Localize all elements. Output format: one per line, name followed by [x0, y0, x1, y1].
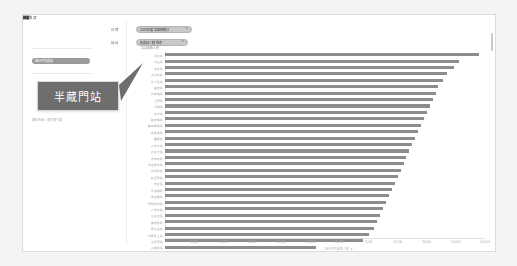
bar-row[interactable]: 九段下站	[165, 149, 485, 154]
bar-row[interactable]: 秋葉原站	[165, 175, 485, 180]
bar-row[interactable]: 東京站	[165, 111, 485, 116]
y-axis-tick-label: 後樂園站	[151, 195, 163, 199]
bar-row[interactable]: 池袋站	[165, 53, 485, 58]
bar[interactable]	[165, 201, 386, 204]
y-axis-tick-label: 日本橋站	[151, 92, 163, 96]
filter-label-3: 排序	[23, 15, 29, 20]
bar[interactable]	[165, 227, 374, 230]
bar[interactable]	[165, 175, 398, 178]
chevron-down-icon-2: ▾	[182, 39, 184, 43]
y-axis-tick-label: 新橋站	[154, 105, 163, 109]
bar-series: 池袋站新宿站渋谷站大手町站北千住站銀座站日本橋站上野站新橋站東京站飯田橋站高田馬…	[165, 52, 485, 238]
y-axis-tick-label: 市谷站	[154, 182, 163, 186]
x-axis-tick-label: 60,000	[335, 240, 344, 244]
bar-row[interactable]: 茅場町站	[165, 169, 485, 174]
chart-title: 各站乘客人數	[141, 45, 159, 50]
x-axis-tick-label: 80,000	[393, 240, 402, 244]
bar-row[interactable]: 表參道站	[165, 130, 485, 135]
y-axis-tick-label: 茗荷谷站	[151, 214, 163, 218]
bar[interactable]	[165, 182, 395, 185]
y-axis-tick-label: 飯田橋站	[151, 118, 163, 122]
y-axis-tick-label: 秋葉原站	[151, 176, 163, 180]
bar[interactable]	[165, 53, 479, 56]
x-axis-tick-label: 10,000	[190, 240, 199, 244]
x-axis-tick-label: 40,000	[277, 240, 286, 244]
bar[interactable]	[165, 207, 383, 210]
selector-caption-station: 站 台	[111, 40, 118, 45]
y-axis-tick-label: 赤坂見附站	[148, 163, 163, 167]
filter-footer-note: 資料來源：東京地下鐵	[32, 118, 62, 122]
scrollbar-thumb[interactable]	[491, 33, 493, 51]
bar-row[interactable]: 水道橋站	[165, 188, 485, 193]
bar[interactable]	[165, 124, 421, 127]
app-background: 篩選 測量方式 每日平均進站 排序 資料來源：東京地下鐵 日 期 2023年度 …	[0, 0, 517, 266]
bar[interactable]	[165, 214, 380, 217]
scrollbar-track[interactable]	[491, 19, 493, 247]
bar-row[interactable]: 大手町站	[165, 72, 485, 77]
bar-row[interactable]: 高田馬場站	[165, 124, 485, 129]
dashboard-card: 篩選 測量方式 每日平均進站 排序 資料來源：東京地下鐵 日 期 2023年度 …	[22, 14, 496, 252]
x-axis-tick-label: 70,000	[364, 240, 373, 244]
bar[interactable]	[165, 130, 418, 133]
bar[interactable]	[165, 162, 404, 165]
bar-row[interactable]: 銀座站	[165, 85, 485, 90]
bar[interactable]	[165, 98, 433, 101]
bar[interactable]	[165, 92, 436, 95]
y-axis-tick-label: 人形町站	[151, 208, 163, 212]
y-axis-tick-label: 池袋站	[154, 54, 163, 58]
bar-row[interactable]: 上野站	[165, 98, 485, 103]
bar[interactable]	[165, 117, 424, 120]
bar[interactable]	[165, 220, 377, 223]
sort-caret-icon: ▾	[351, 247, 353, 251]
y-axis-tick-label: 表參道站	[151, 131, 163, 135]
bar-row[interactable]: 門前仲町站	[165, 201, 485, 206]
plot-area: 池袋站新宿站渋谷站大手町站北千住站銀座站日本橋站上野站新橋站東京站飯田橋站高田馬…	[165, 52, 485, 238]
filter-panel: 篩選 測量方式 每日平均進站 排序 資料來源：東京地下鐵	[23, 15, 127, 251]
bar[interactable]	[165, 233, 369, 236]
bar[interactable]	[165, 85, 438, 88]
bar-row[interactable]: 惠比壽站	[165, 227, 485, 232]
bar[interactable]	[165, 149, 409, 152]
bar[interactable]	[165, 104, 430, 107]
bar[interactable]	[165, 169, 401, 172]
bar-row[interactable]: 永田町站	[165, 156, 485, 161]
y-axis-tick-label: 九段下站	[151, 150, 163, 154]
station-tooltip: 半蔵門站	[37, 81, 119, 111]
y-axis-tick-label: 大手町站	[151, 73, 163, 77]
bar-row[interactable]: 後樂園站	[165, 194, 485, 199]
bar-row[interactable]: 六本木站	[165, 143, 485, 148]
selector-caption-date: 日 期	[111, 27, 118, 32]
bar-row[interactable]: 神保町站	[165, 220, 485, 225]
chevron-down-icon: ▾	[186, 26, 188, 30]
bar[interactable]	[165, 60, 459, 63]
bar[interactable]	[165, 137, 415, 140]
station-tooltip-label: 半蔵門站	[54, 88, 102, 104]
bar-row[interactable]: 日本橋站	[165, 92, 485, 97]
y-axis-tick-label: 上野站	[154, 99, 163, 103]
bar-row[interactable]: 新橋站	[165, 104, 485, 109]
y-axis-tick-label: 東京站	[154, 112, 163, 116]
bar-row[interactable]: 霞關站	[165, 137, 485, 142]
bar-row[interactable]: 赤坂見附站	[165, 162, 485, 167]
bar-row[interactable]: 飯田橋站	[165, 117, 485, 122]
bar[interactable]	[165, 72, 447, 75]
bar-row[interactable]: 市谷站	[165, 182, 485, 187]
bar-row[interactable]: 北千住站	[165, 79, 485, 84]
y-axis-tick-label: 北千住站	[151, 80, 163, 84]
bar[interactable]	[165, 194, 389, 197]
bar[interactable]	[165, 66, 454, 69]
date-dropdown-value: 2023年度 全路線統計	[140, 27, 169, 32]
bar-row[interactable]: 新宿站	[165, 60, 485, 65]
bar[interactable]	[165, 143, 412, 146]
bar-row[interactable]: 茗荷谷站	[165, 214, 485, 219]
y-axis-tick-label: 門前仲町站	[148, 202, 163, 206]
bar[interactable]	[165, 188, 392, 191]
bar-row[interactable]: 渋谷站	[165, 66, 485, 71]
y-axis-tick-label: 中野坂上站	[148, 234, 163, 238]
bar[interactable]	[165, 156, 406, 159]
y-axis-tick-label: 渋谷站	[154, 67, 163, 71]
bar[interactable]	[165, 79, 443, 82]
bar[interactable]	[165, 111, 427, 114]
bar-row[interactable]: 人形町站	[165, 207, 485, 212]
y-axis-tick-label: 永田町站	[151, 157, 163, 161]
